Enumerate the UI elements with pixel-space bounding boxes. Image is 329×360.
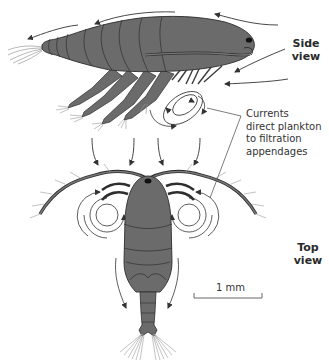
side-view-label-line2: view (286, 50, 326, 63)
side-view-label: Side view (286, 37, 326, 63)
top-view-label-line1: Top (290, 241, 326, 254)
annotation-line2: direct plankton (246, 121, 322, 134)
side-view-label-line1: Side (286, 37, 326, 50)
annotation-line3: to filtration (246, 133, 322, 146)
annotation-line4: appendages (246, 146, 322, 159)
scale-bar-label: 1 mm (216, 282, 245, 293)
top-view-label-line2: view (290, 254, 326, 267)
top-view-label: Top view (290, 241, 326, 267)
scale-bar (194, 293, 262, 298)
copepod-diagram (0, 0, 329, 360)
annotation-line1: Currents (246, 108, 322, 121)
top-view-copepod (30, 138, 266, 360)
top-body (124, 176, 172, 292)
side-body (42, 16, 254, 71)
eye-icon (246, 37, 252, 42)
eye-icon (145, 179, 152, 184)
currents-annotation: Currents direct plankton to filtration a… (246, 108, 322, 158)
